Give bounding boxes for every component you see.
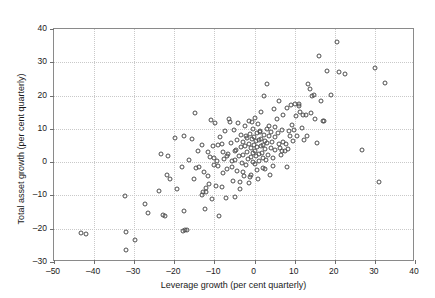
data-point bbox=[264, 81, 269, 86]
x-axis-tick-label: –30 bbox=[126, 266, 140, 276]
y-axis-tick bbox=[50, 195, 54, 196]
data-point bbox=[200, 192, 205, 197]
y-axis-tick-label: –20 bbox=[33, 223, 47, 233]
plot-area bbox=[53, 28, 414, 261]
data-point bbox=[229, 165, 234, 170]
x-axis-tick-label: 0 bbox=[251, 266, 256, 276]
data-point bbox=[258, 110, 263, 115]
y-axis-tick bbox=[50, 129, 54, 130]
data-point bbox=[159, 152, 164, 157]
x-axis-tick-label: –40 bbox=[86, 266, 100, 276]
data-point bbox=[234, 138, 239, 143]
data-point bbox=[314, 141, 319, 146]
data-point bbox=[289, 122, 294, 127]
data-point bbox=[247, 180, 252, 185]
data-point bbox=[123, 229, 128, 234]
data-point bbox=[255, 176, 260, 181]
gridline-vertical bbox=[94, 29, 95, 260]
data-point bbox=[244, 163, 249, 168]
data-point bbox=[280, 148, 285, 153]
x-axis-tick-label: 40 bbox=[409, 266, 418, 276]
data-point bbox=[285, 146, 290, 151]
data-point bbox=[123, 193, 128, 198]
y-axis-tick-label: 10 bbox=[38, 123, 47, 133]
x-axis-tick bbox=[54, 260, 55, 264]
data-point bbox=[285, 165, 290, 170]
data-point bbox=[189, 136, 194, 141]
data-point bbox=[210, 197, 215, 202]
x-axis-tick bbox=[174, 260, 175, 264]
data-point bbox=[247, 174, 252, 179]
gridline-vertical bbox=[375, 29, 376, 260]
data-point bbox=[232, 128, 237, 133]
data-point bbox=[262, 147, 267, 152]
data-point bbox=[240, 169, 245, 174]
data-point bbox=[124, 247, 129, 252]
y-axis-tick-label: 30 bbox=[38, 56, 47, 66]
data-point bbox=[220, 150, 225, 155]
data-point bbox=[228, 140, 233, 145]
gridline-vertical bbox=[134, 29, 135, 260]
data-point bbox=[132, 238, 137, 243]
data-point bbox=[272, 134, 277, 139]
data-point bbox=[283, 141, 288, 146]
data-point bbox=[255, 167, 260, 172]
data-point bbox=[342, 72, 347, 77]
gridline-horizontal bbox=[54, 229, 413, 230]
data-point bbox=[270, 164, 275, 169]
data-point bbox=[262, 167, 267, 172]
data-point bbox=[261, 156, 266, 161]
y-axis-tick bbox=[50, 96, 54, 97]
x-axis-tick-label: 20 bbox=[329, 266, 338, 276]
x-axis-tick-label: 10 bbox=[289, 266, 298, 276]
data-point bbox=[267, 173, 272, 178]
data-point bbox=[316, 53, 321, 58]
x-axis-tick bbox=[295, 260, 296, 264]
data-point bbox=[274, 117, 279, 122]
y-axis-tick-label: 0 bbox=[42, 156, 47, 166]
y-axis-tick bbox=[50, 262, 54, 263]
data-point bbox=[281, 112, 286, 117]
data-point bbox=[172, 135, 177, 140]
data-point bbox=[324, 68, 329, 73]
x-axis-tick-label: 30 bbox=[369, 266, 378, 276]
data-point bbox=[214, 184, 219, 189]
data-point bbox=[279, 127, 284, 132]
gridline-vertical bbox=[174, 29, 175, 260]
y-axis-tick bbox=[50, 62, 54, 63]
data-point bbox=[218, 134, 223, 139]
scatter-chart-figure: Leverage growth (per cent quarterly) Tot… bbox=[0, 0, 435, 298]
data-point bbox=[192, 110, 197, 115]
data-point bbox=[205, 174, 210, 179]
data-point bbox=[195, 149, 200, 154]
data-point bbox=[249, 119, 254, 124]
data-point bbox=[291, 138, 296, 143]
data-point bbox=[304, 134, 309, 139]
data-point bbox=[215, 143, 220, 148]
data-point bbox=[181, 133, 186, 138]
data-point bbox=[143, 202, 148, 207]
data-point bbox=[186, 157, 191, 162]
data-point bbox=[278, 153, 283, 158]
data-point bbox=[228, 120, 233, 125]
data-point bbox=[271, 155, 276, 160]
gridline-horizontal bbox=[54, 62, 413, 63]
x-axis-tick bbox=[214, 260, 215, 264]
data-point bbox=[163, 213, 168, 218]
data-point bbox=[318, 99, 323, 104]
data-point bbox=[321, 118, 326, 123]
data-point bbox=[84, 232, 89, 237]
data-point bbox=[203, 207, 208, 212]
x-axis-tick-label: –20 bbox=[166, 266, 180, 276]
data-point bbox=[213, 120, 218, 125]
y-axis-tick-label: 40 bbox=[38, 23, 47, 33]
data-point bbox=[308, 110, 313, 115]
y-axis-tick-label: –10 bbox=[33, 189, 47, 199]
x-axis-tick bbox=[255, 260, 256, 264]
x-axis-tick bbox=[375, 260, 376, 264]
y-axis-label: Total asset growth (per cent quarterly) bbox=[16, 0, 30, 298]
data-point bbox=[295, 133, 300, 138]
data-point bbox=[166, 153, 171, 158]
data-point bbox=[232, 195, 237, 200]
data-point bbox=[223, 129, 228, 134]
